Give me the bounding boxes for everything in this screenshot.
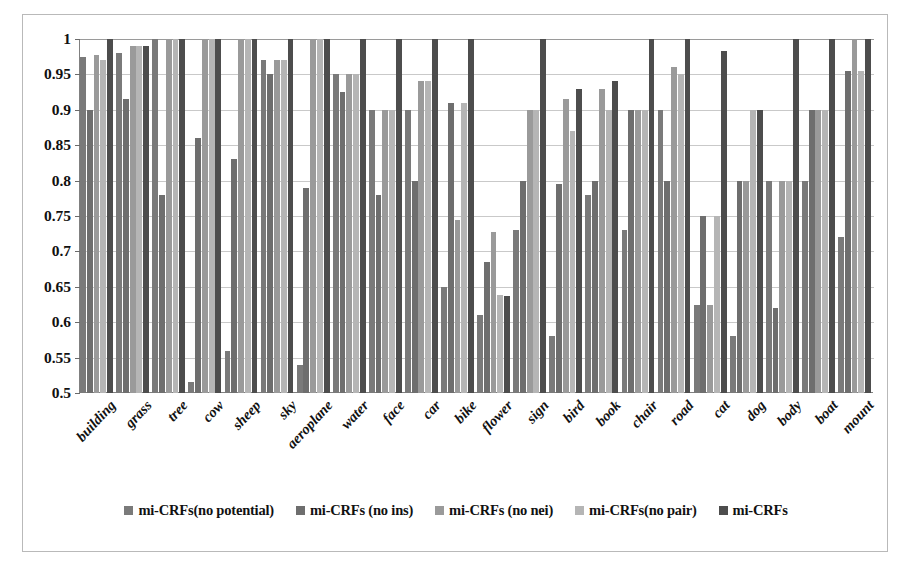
bar[interactable] bbox=[491, 232, 497, 393]
legend-entry[interactable]: mi-CRFs (no nei) bbox=[435, 502, 553, 519]
bar[interactable] bbox=[649, 39, 655, 393]
bar[interactable] bbox=[143, 46, 149, 393]
bar[interactable] bbox=[592, 181, 598, 393]
bar[interactable] bbox=[737, 181, 743, 393]
bar[interactable] bbox=[324, 39, 330, 393]
bar[interactable] bbox=[94, 55, 100, 393]
bar[interactable] bbox=[261, 60, 267, 393]
bar[interactable] bbox=[215, 39, 221, 393]
bar[interactable] bbox=[599, 89, 605, 393]
bar[interactable] bbox=[288, 39, 294, 393]
bar[interactable] bbox=[238, 39, 244, 393]
bar[interactable] bbox=[838, 237, 844, 393]
bar[interactable] bbox=[87, 110, 93, 393]
bar[interactable] bbox=[159, 195, 165, 393]
bar[interactable] bbox=[376, 195, 382, 393]
bar[interactable] bbox=[549, 336, 555, 393]
bar[interactable] bbox=[310, 39, 316, 393]
bar[interactable] bbox=[461, 103, 467, 393]
bar[interactable] bbox=[484, 262, 490, 393]
bar[interactable] bbox=[418, 81, 424, 393]
bar[interactable] bbox=[477, 315, 483, 393]
bar[interactable] bbox=[80, 57, 86, 393]
bar[interactable] bbox=[209, 39, 215, 393]
legend-entry[interactable]: mi-CRFs(no potential) bbox=[124, 502, 274, 519]
bar[interactable] bbox=[497, 295, 503, 393]
bar[interactable] bbox=[721, 51, 727, 393]
bar[interactable] bbox=[606, 110, 612, 393]
bar[interactable] bbox=[100, 60, 106, 393]
bar[interactable] bbox=[179, 39, 185, 393]
legend-entry[interactable]: mi-CRFs(no pair) bbox=[575, 502, 697, 519]
bar[interactable] bbox=[802, 181, 808, 393]
bar[interactable] bbox=[389, 110, 395, 393]
bar[interactable] bbox=[188, 382, 194, 393]
bar[interactable] bbox=[468, 39, 474, 393]
bar[interactable] bbox=[136, 46, 142, 393]
bar[interactable] bbox=[809, 110, 815, 393]
bar[interactable] bbox=[405, 110, 411, 393]
bar[interactable] bbox=[793, 39, 799, 393]
bar[interactable] bbox=[202, 39, 208, 393]
bar[interactable] bbox=[658, 110, 664, 393]
bar[interactable] bbox=[779, 181, 785, 393]
bar[interactable] bbox=[750, 110, 756, 393]
bar[interactable] bbox=[671, 67, 677, 393]
bar[interactable] bbox=[570, 131, 576, 393]
bar[interactable] bbox=[707, 305, 713, 394]
bar[interactable] bbox=[700, 216, 706, 393]
bar[interactable] bbox=[773, 308, 779, 393]
bar[interactable] bbox=[540, 39, 546, 393]
bar[interactable] bbox=[845, 71, 851, 393]
bar[interactable] bbox=[556, 184, 562, 393]
bar[interactable] bbox=[685, 39, 691, 393]
bar[interactable] bbox=[694, 305, 700, 394]
bar[interactable] bbox=[333, 74, 339, 393]
bar[interactable] bbox=[766, 181, 772, 393]
bar[interactable] bbox=[441, 287, 447, 393]
bar[interactable] bbox=[576, 89, 582, 393]
bar[interactable] bbox=[786, 181, 792, 393]
bar[interactable] bbox=[303, 188, 309, 393]
bar[interactable] bbox=[369, 110, 375, 393]
bar[interactable] bbox=[642, 110, 648, 393]
bar[interactable] bbox=[107, 39, 113, 393]
bar[interactable] bbox=[585, 195, 591, 393]
bar[interactable] bbox=[858, 71, 864, 393]
bar[interactable] bbox=[852, 39, 858, 393]
bar[interactable] bbox=[267, 74, 273, 393]
bar[interactable] bbox=[513, 230, 519, 393]
bar[interactable] bbox=[353, 74, 359, 393]
bar[interactable] bbox=[829, 39, 835, 393]
bar[interactable] bbox=[152, 39, 158, 393]
bar[interactable] bbox=[412, 181, 418, 393]
bar[interactable] bbox=[274, 60, 280, 393]
bar[interactable] bbox=[360, 39, 366, 393]
bar[interactable] bbox=[195, 138, 201, 393]
bar[interactable] bbox=[340, 92, 346, 393]
bar[interactable] bbox=[635, 110, 641, 393]
bar[interactable] bbox=[622, 230, 628, 393]
legend-entry[interactable]: mi-CRFs (no ins) bbox=[296, 502, 413, 519]
bar[interactable] bbox=[520, 181, 526, 393]
bar[interactable] bbox=[130, 46, 136, 393]
bar[interactable] bbox=[425, 81, 431, 393]
bar[interactable] bbox=[281, 60, 287, 393]
bar[interactable] bbox=[678, 74, 684, 393]
bar[interactable] bbox=[612, 81, 618, 393]
bar[interactable] bbox=[455, 220, 461, 393]
bar[interactable] bbox=[563, 99, 569, 393]
bar[interactable] bbox=[166, 39, 172, 393]
bar[interactable] bbox=[432, 39, 438, 393]
bar[interactable] bbox=[628, 110, 634, 393]
bar[interactable] bbox=[396, 39, 402, 393]
bar[interactable] bbox=[231, 159, 237, 393]
bar[interactable] bbox=[664, 181, 670, 393]
bar[interactable] bbox=[730, 336, 736, 393]
bar[interactable] bbox=[317, 39, 323, 393]
bar[interactable] bbox=[757, 110, 763, 393]
bar[interactable] bbox=[527, 110, 533, 393]
bar[interactable] bbox=[533, 110, 539, 393]
bar[interactable] bbox=[382, 110, 388, 393]
bar[interactable] bbox=[714, 216, 720, 393]
